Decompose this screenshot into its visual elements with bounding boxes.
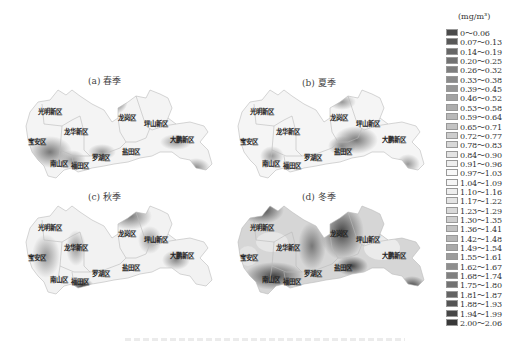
district-label-nanshan: 南山区: [262, 159, 281, 168]
district-label-yantian: 盐田区: [122, 263, 141, 272]
legend-swatch: [446, 300, 458, 307]
district-label-baoan: 宝安区: [28, 137, 47, 146]
district-label-longgang: 龙岗区: [329, 229, 349, 238]
figure-caption-placeholder: [125, 338, 405, 341]
district-label-dapeng: 大鹏新区: [170, 251, 195, 260]
legend-swatch: [446, 319, 458, 326]
district-label-yantian: 盐田区: [334, 147, 353, 156]
legend-swatch: [446, 85, 458, 92]
district-label-nanshan: 南山区: [50, 159, 69, 168]
district-label-pingshan: 坪山新区: [144, 235, 169, 244]
district-label-guangming: 光明新区: [249, 223, 275, 232]
legend-swatch: [446, 94, 458, 101]
legend-swatch: [446, 188, 458, 195]
district-label-longgang: 龙岗区: [117, 113, 137, 122]
legend-swatch: [446, 160, 458, 167]
district-label-luohu: 罗湖区: [304, 269, 323, 278]
district-label-baoan: 宝安区: [240, 253, 259, 262]
legend-swatch: [446, 235, 458, 242]
district-label-nanshan: 南山区: [262, 275, 281, 284]
district-label-longhua: 龙华新区: [275, 243, 301, 252]
legend-swatch: [446, 151, 458, 158]
legend-swatch: [446, 169, 458, 176]
district-label-futian: 福田区: [70, 277, 90, 286]
legend-swatch: [446, 253, 458, 260]
shenzhen-map: 光明新区 龙华新区 宝安区 南山区 福田区 罗湖区 盐田区 龙岗区 坪山新区 大…: [212, 60, 427, 185]
district-label-yantian: 盐田区: [334, 263, 353, 272]
legend-swatch: [446, 113, 458, 120]
legend-swatch: [446, 29, 458, 36]
legend-unit-label: (mg/m³): [458, 12, 490, 21]
district-label-futian: 福田区: [282, 277, 302, 286]
map-panel-autumn: (c) 秋季 光明新区 龙华新区 宝安区 南山区 福田区 罗湖区: [0, 194, 210, 345]
legend-swatch: [446, 76, 458, 83]
shenzhen-map: 光明新区 龙华新区 宝安区 南山区 福田区 罗湖区 盐田区 龙岗区 坪山新区 大…: [0, 60, 215, 185]
legend-swatch: [446, 141, 458, 148]
legend-swatch: [446, 57, 458, 64]
shenzhen-map: 光明新区 龙华新区 宝安区 南山区 福田区 罗湖区 盐田区 龙岗区 坪山新区 大…: [212, 176, 427, 301]
district-label-pingshan: 坪山新区: [144, 119, 169, 128]
district-label-nanshan: 南山区: [50, 275, 69, 284]
district-label-guangming: 光明新区: [249, 107, 275, 116]
district-label-longgang: 龙岗区: [117, 229, 137, 238]
legend-swatch: [446, 272, 458, 279]
legend-swatch: [446, 38, 458, 45]
legend-entry: 2.00～2.06: [446, 319, 517, 327]
legend-swatch: [446, 216, 458, 223]
legend-swatch: [446, 263, 458, 270]
legend-swatch: [446, 48, 458, 55]
district-label-yantian: 盐田区: [122, 147, 141, 156]
legend-swatch: [446, 66, 458, 73]
district-label-luohu: 罗湖区: [304, 153, 323, 162]
shenzhen-map: 光明新区 龙华新区 宝安区 南山区 福田区 罗湖区 盐田区 龙岗区 坪山新区 大…: [0, 176, 215, 301]
legend-swatch: [446, 179, 458, 186]
legend-swatch: [446, 207, 458, 214]
legend-swatch: [446, 197, 458, 204]
legend-swatch: [446, 244, 458, 251]
legend-label: 2.00～2.06: [460, 317, 502, 328]
district-label-luohu: 罗湖区: [92, 269, 111, 278]
district-label-longhua: 龙华新区: [275, 127, 301, 136]
map-panel-winter: (d) 冬季 光明新区 龙华新区 宝安区: [212, 194, 422, 345]
legend-swatch: [446, 132, 458, 139]
legend-swatch: [446, 104, 458, 111]
district-label-futian: 福田区: [70, 161, 90, 170]
district-label-dapeng: 大鹏新区: [170, 135, 195, 144]
legend-swatch: [446, 281, 458, 288]
legend-swatch: [446, 291, 458, 298]
district-label-guangming: 光明新区: [37, 107, 63, 116]
district-label-guangming: 光明新区: [37, 223, 63, 232]
district-label-baoan: 宝安区: [240, 137, 259, 146]
district-label-pingshan: 坪山新区: [356, 119, 381, 128]
district-label-longgang: 龙岗区: [329, 113, 349, 122]
district-label-longhua: 龙华新区: [63, 243, 89, 252]
district-label-baoan: 宝安区: [28, 253, 47, 262]
legend-swatch: [446, 310, 458, 317]
district-label-dapeng: 大鹏新区: [382, 251, 407, 260]
district-label-longhua: 龙华新区: [63, 127, 89, 136]
district-label-dapeng: 大鹏新区: [382, 135, 407, 144]
legend-swatch: [446, 123, 458, 130]
district-label-luohu: 罗湖区: [92, 153, 111, 162]
district-label-futian: 福田区: [282, 161, 302, 170]
legend-swatch: [446, 225, 458, 232]
district-label-pingshan: 坪山新区: [356, 235, 381, 244]
